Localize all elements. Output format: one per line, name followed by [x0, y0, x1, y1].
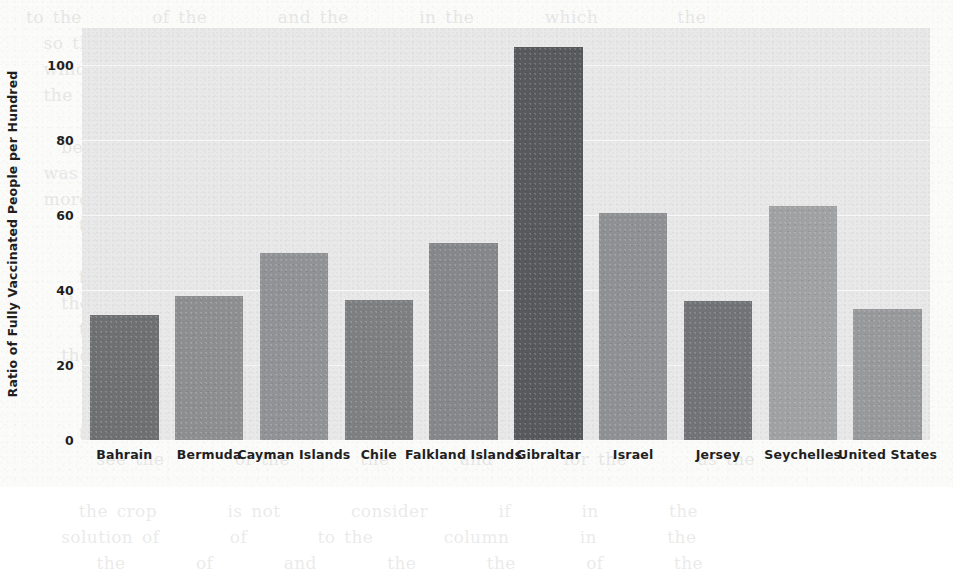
gridline — [82, 140, 930, 141]
y-axis-tick-label: 60 — [4, 208, 74, 223]
bar[interactable] — [684, 301, 752, 440]
bar-texture — [769, 206, 837, 440]
bar[interactable] — [769, 206, 837, 440]
bar-texture — [90, 315, 158, 440]
bar-texture — [853, 309, 921, 440]
bar[interactable] — [260, 253, 328, 440]
bar[interactable] — [175, 296, 243, 440]
bar-texture — [429, 243, 497, 440]
bar-texture — [514, 47, 582, 440]
bar[interactable] — [599, 213, 667, 440]
bar[interactable] — [429, 243, 497, 440]
bar-texture — [260, 253, 328, 440]
gridline — [82, 65, 930, 66]
y-axis-tick-labels: 020406080100 — [0, 0, 74, 487]
y-axis-tick-label: 20 — [4, 358, 74, 373]
y-axis-tick-label: 0 — [4, 433, 74, 448]
bar-texture — [345, 300, 413, 440]
bar[interactable] — [90, 315, 158, 440]
y-axis-tick-label: 80 — [4, 133, 74, 148]
bar-texture — [684, 301, 752, 440]
plot-area — [82, 28, 930, 440]
bar-texture — [175, 296, 243, 440]
bar-texture — [599, 213, 667, 440]
y-axis-tick-label: 40 — [4, 283, 74, 298]
y-axis-tick-label: 100 — [4, 58, 74, 73]
bar[interactable] — [345, 300, 413, 440]
x-axis-tick-label: United States — [798, 447, 953, 462]
bar[interactable] — [853, 309, 921, 440]
bar[interactable] — [514, 47, 582, 440]
